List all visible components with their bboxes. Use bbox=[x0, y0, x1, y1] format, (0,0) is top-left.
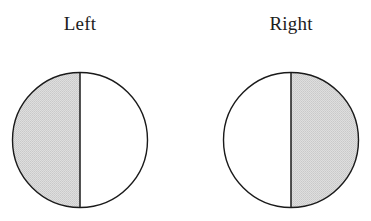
circle-label-right: Right bbox=[221, 13, 361, 35]
circle-diagram-right bbox=[221, 71, 361, 211]
shaded-half-left bbox=[10, 71, 80, 211]
circle-label-left: Left bbox=[10, 13, 150, 35]
circle-diagram-left bbox=[10, 71, 150, 211]
shaded-half-right bbox=[291, 71, 361, 211]
two-circle-diagram: Left Right bbox=[0, 0, 371, 221]
